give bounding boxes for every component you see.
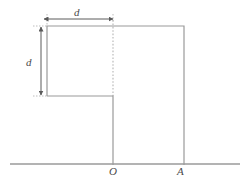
dimension-label-d-vertical: d xyxy=(26,57,32,68)
point-label-origin: O xyxy=(109,166,117,177)
geometry-figure: d d O A xyxy=(0,0,249,184)
inner-step-path xyxy=(47,96,113,165)
figure-canvas xyxy=(0,0,249,184)
dimension-label-d-horizontal: d xyxy=(74,7,80,18)
point-label-a: A xyxy=(177,166,184,177)
